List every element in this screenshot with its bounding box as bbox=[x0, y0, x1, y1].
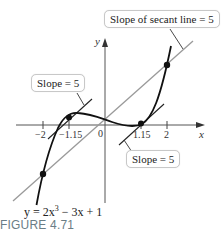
secant-slope-callout: Slope of secant line = 5 bbox=[104, 10, 220, 28]
tangent-point-left bbox=[66, 115, 72, 121]
equation-prefix: y = 2x bbox=[24, 205, 55, 219]
x-axis-label: x bbox=[199, 128, 204, 140]
tick-label-0: 0 bbox=[98, 128, 103, 139]
figure-caption: FIGURE 4.71 bbox=[0, 218, 74, 232]
right-tangent-slope-callout: Slope = 5 bbox=[126, 150, 180, 168]
y-axis-arrow-icon bbox=[102, 38, 108, 47]
tangent-point-right bbox=[138, 121, 144, 127]
tick-label-neg2: −2 bbox=[35, 129, 46, 140]
graph-canvas bbox=[0, 0, 224, 236]
left-callout-leader bbox=[77, 93, 84, 105]
secant-callout-leader bbox=[170, 29, 183, 49]
equation-suffix: − 3x + 1 bbox=[59, 205, 103, 219]
secant-point-left bbox=[40, 171, 46, 177]
y-axis-label: y bbox=[95, 35, 100, 47]
tick-label-1-15: 1.15 bbox=[133, 129, 151, 140]
left-tangent-slope-callout: Slope = 5 bbox=[31, 74, 85, 92]
secant-point-right bbox=[164, 62, 170, 68]
tick-label-neg1-15: −1.15 bbox=[59, 129, 82, 140]
tick-label-2: 2 bbox=[164, 129, 169, 140]
